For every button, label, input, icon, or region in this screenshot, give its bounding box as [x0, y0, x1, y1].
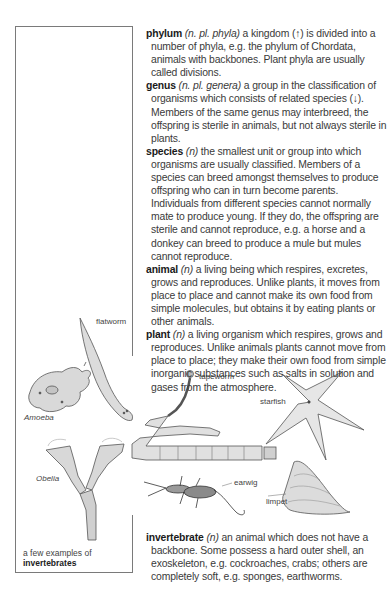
label-limpet: limpet — [266, 497, 287, 506]
definition: a living organism which respires, grows … — [151, 329, 386, 392]
headword: animal — [146, 264, 178, 275]
grammar: (n. pl. phyla) — [185, 28, 240, 39]
label-starfish: starfish — [260, 397, 286, 406]
grammar: (n) — [173, 329, 185, 340]
caption-line1: a few examples of — [23, 548, 92, 558]
definitions-list: phylum (n. pl. phyla) a kingdom (↑) is d… — [146, 27, 388, 394]
entry-invertebrate: invertebrate (n) an animal which does no… — [146, 531, 388, 583]
grammar: (n) — [186, 146, 198, 157]
earwig-icon — [144, 476, 244, 515]
obelia-icon — [46, 438, 124, 540]
entry-plant: plant (n) a living organism which respir… — [146, 328, 388, 393]
headword: invertebrate — [146, 532, 204, 543]
headword: genus — [146, 80, 176, 91]
grammar: (n. pl. genera) — [179, 80, 241, 91]
caption-line2: invertebrates — [23, 558, 76, 568]
entry-species: species (n) the smallest unit or group i… — [146, 145, 388, 263]
label-flatworm: flatworm — [96, 317, 126, 326]
headword: plant — [146, 329, 170, 340]
entry-animal: animal (n) a living being which respires… — [146, 263, 388, 328]
label-obelia: Obelia — [36, 474, 59, 483]
headword: phylum — [146, 28, 182, 39]
headword: species — [146, 146, 183, 157]
amoeba-icon — [29, 362, 91, 412]
definition: the smallest unit or group into which or… — [151, 146, 379, 262]
entry-genus: genus (n. pl. genera) a group in the cla… — [146, 79, 388, 144]
limpet-icon — [283, 461, 350, 514]
label-amoeba: Amoeba — [24, 413, 54, 422]
label-earwig: earwig — [234, 478, 258, 487]
flatworm-icon — [80, 318, 133, 421]
entry-phylum: phylum (n. pl. phyla) a kingdom (↑) is d… — [146, 27, 388, 79]
grammar: (n) — [181, 264, 193, 275]
grammar: (n) — [206, 532, 218, 543]
figure-caption: a few examples of invertebrates — [23, 548, 92, 568]
